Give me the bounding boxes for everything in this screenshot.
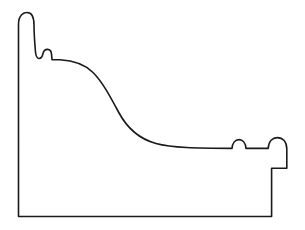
moulding-profile-drawing bbox=[0, 0, 305, 230]
profile-drawing-svg bbox=[0, 0, 305, 230]
